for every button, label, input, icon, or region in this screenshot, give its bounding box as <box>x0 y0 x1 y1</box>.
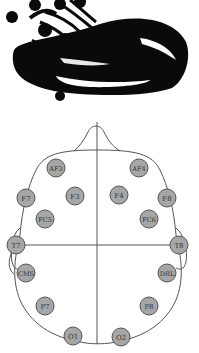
electrode-label: O2 <box>116 334 126 342</box>
electrode-o1: O1 <box>64 327 82 345</box>
electrode-label: AF3 <box>48 165 62 173</box>
headset-photo <box>0 0 199 110</box>
electrode-drl: DRL <box>158 264 176 282</box>
electrode-t8: T8 <box>170 236 188 254</box>
electrode-label: FC6 <box>142 216 156 224</box>
electrode-t7: T7 <box>7 236 25 254</box>
electrode-af4: AF4 <box>130 159 148 177</box>
electrode-p7: P7 <box>36 297 54 315</box>
head-outline <box>15 150 182 344</box>
electrode-placement-diagram: AF3AF4F7F3F4F8FC5FC6T7T8CMSDRLP7P8O1O2 <box>0 110 199 353</box>
electrode-label: FC5 <box>38 216 52 224</box>
electrode-label: F8 <box>162 195 171 203</box>
electrode-label: P7 <box>40 303 49 311</box>
electrode-label: F7 <box>21 195 30 203</box>
headset-illustration <box>0 0 199 110</box>
electrode-label: T8 <box>174 242 183 250</box>
electrode-f8: F8 <box>158 189 176 207</box>
electrode-label: O1 <box>68 333 78 341</box>
electrode-label: AF4 <box>131 165 145 173</box>
electrode-p8: P8 <box>140 297 158 315</box>
electrode-f4: F4 <box>110 186 128 204</box>
electrode-label: CMS <box>18 270 34 278</box>
electrode-label: T7 <box>11 242 20 250</box>
electrode-f7: F7 <box>17 189 35 207</box>
head-map: AF3AF4F7F3F4F8FC5FC6T7T8CMSDRLP7P8O1O2 <box>0 110 199 353</box>
electrode-label: DRL <box>160 270 175 278</box>
electrode-o2: O2 <box>112 328 130 346</box>
electrode-fc6: FC6 <box>140 210 158 228</box>
electrode-f3: F3 <box>66 187 84 205</box>
electrode-fc5: FC5 <box>36 210 54 228</box>
electrode-label: F3 <box>70 193 79 201</box>
electrode-af3: AF3 <box>47 159 65 177</box>
electrode-label: P8 <box>144 303 153 311</box>
electrode-cms: CMS <box>17 264 35 282</box>
electrode-label: F4 <box>114 192 124 200</box>
